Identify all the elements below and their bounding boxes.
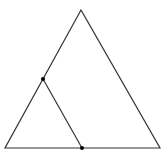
- point-on-base: [80, 146, 84, 150]
- point-on-left-side: [41, 77, 45, 81]
- inner-segment: [43, 79, 82, 148]
- triangle-diagram: [0, 0, 168, 157]
- outer-triangle: [5, 10, 160, 148]
